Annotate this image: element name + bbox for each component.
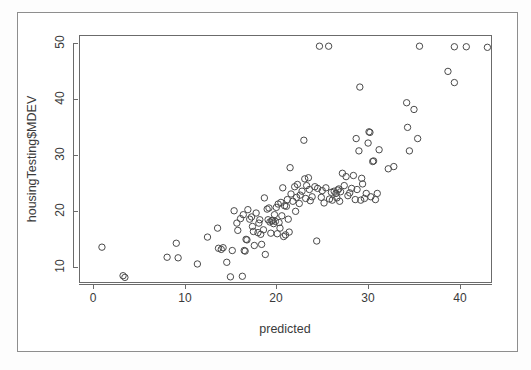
y-axis-line	[73, 43, 74, 267]
y-tick-label: 20	[53, 199, 67, 221]
x-tick-label: 10	[178, 291, 191, 305]
x-axis-line	[79, 284, 492, 285]
y-tick-label: 10	[53, 255, 67, 277]
y-tick-label: 50	[53, 31, 67, 53]
x-axis-label: predicted	[259, 322, 310, 336]
plot-area-box	[79, 35, 492, 283]
x-tick-label: 30	[361, 291, 374, 305]
y-tick-label: 30	[53, 143, 67, 165]
y-axis-label: housingTesting$MDEV	[25, 96, 39, 222]
x-tick-label: 20	[269, 291, 282, 305]
y-tick-mark	[73, 267, 78, 268]
x-tick-label: 0	[90, 291, 97, 305]
scatter-plot-figure: 0102030401020304050 predicted housingTes…	[0, 0, 531, 370]
y-tick-label: 40	[53, 87, 67, 109]
x-tick-label: 40	[453, 291, 466, 305]
